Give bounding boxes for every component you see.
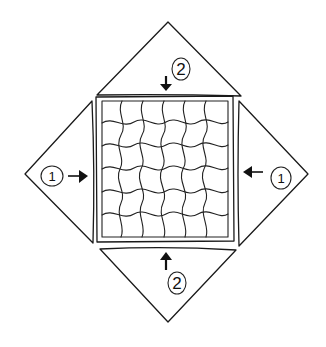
top-step-number: 2: [176, 60, 185, 79]
diagram-svg: 2 2 1: [0, 0, 326, 347]
bottom-arrow-up-icon: [160, 252, 172, 270]
left-flap-triangle: [25, 101, 94, 243]
center-square: [96, 96, 234, 242]
top-step-badge: 2: [172, 58, 190, 80]
bottom-flap: 2: [100, 248, 236, 322]
left-step-number: 1: [48, 169, 55, 184]
right-step-number: 1: [277, 171, 284, 186]
right-flap: 1: [238, 101, 308, 246]
top-arrow-down-icon: [160, 76, 172, 91]
right-step-badge: 1: [271, 167, 291, 189]
left-step-badge: 1: [41, 166, 63, 186]
left-flap: 1: [25, 101, 94, 243]
folding-diagram: 2 2 1: [0, 0, 326, 347]
right-arrow-left-icon: [243, 166, 263, 178]
bottom-step-number: 2: [172, 274, 181, 293]
top-flap: 2: [97, 22, 241, 96]
left-arrow-right-icon: [68, 170, 88, 183]
bottom-step-badge: 2: [168, 272, 186, 294]
